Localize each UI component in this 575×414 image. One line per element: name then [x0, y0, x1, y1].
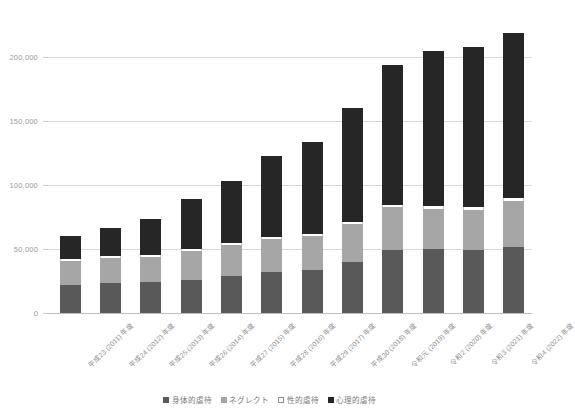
y-axis-label: 200,000: [0, 53, 38, 62]
bar-1: [60, 236, 81, 313]
gridline: [48, 121, 532, 122]
bar-segment-身体的虐待: [100, 283, 121, 313]
bar-segment-心理的虐待: [463, 47, 484, 207]
bar-segment-ネグレクト: [100, 258, 121, 283]
bar-segment-身体的虐待: [342, 262, 363, 314]
gridline: [48, 57, 532, 58]
legend-item-1[interactable]: 身体的虐待: [163, 394, 212, 405]
bar-segment-ネグレクト: [503, 201, 524, 247]
y-axis-tick: [43, 313, 48, 314]
y-axis-label: 50,000: [0, 245, 38, 254]
bar-segment-心理的虐待: [342, 108, 363, 221]
bar-segment-ネグレクト: [463, 210, 484, 250]
y-axis-tick: [43, 57, 48, 58]
bar-segment-心理的虐待: [221, 181, 242, 243]
bar-segment-心理的虐待: [140, 219, 161, 255]
y-axis-tick: [43, 185, 48, 186]
bar-segment-身体的虐待: [181, 280, 202, 314]
bar-segment-心理的虐待: [382, 65, 403, 205]
bar-segment-心理的虐待: [181, 199, 202, 249]
bar-segment-身体的虐待: [382, 250, 403, 313]
bar-segment-ネグレクト: [60, 261, 81, 285]
bar-9: [382, 65, 403, 313]
y-axis-tick: [43, 249, 48, 250]
bar-segment-心理的虐待: [100, 228, 121, 257]
gridline: [48, 185, 532, 186]
bar-segment-身体的虐待: [503, 247, 524, 313]
bar-segment-身体的虐待: [463, 250, 484, 313]
bar-segment-ネグレクト: [140, 257, 161, 282]
bar-segment-ネグレクト: [423, 209, 444, 249]
legend-item-2[interactable]: ネグレクト: [221, 394, 270, 405]
bar-segment-ネグレクト: [181, 251, 202, 280]
bar-segment-心理的虐待: [423, 51, 444, 206]
legend-label: 性的虐待: [287, 394, 319, 405]
bar-segment-心理的虐待: [302, 142, 323, 234]
y-axis-tick: [43, 121, 48, 122]
chart-legend: 身体的虐待ネグレクト性的虐待心理的虐待: [163, 394, 376, 405]
bar-segment-身体的虐待: [423, 249, 444, 313]
legend-item-4[interactable]: 心理的虐待: [328, 394, 377, 405]
swatch-neglect-icon: [221, 397, 227, 403]
bar-4: [181, 199, 202, 313]
bar-12: [503, 33, 524, 314]
bar-8: [342, 108, 363, 313]
bar-segment-ネグレクト: [382, 207, 403, 250]
bar-segment-ネグレクト: [261, 239, 282, 272]
plot-area: 050,000100,000150,000200,000250,000: [48, 0, 532, 313]
bar-10: [423, 51, 444, 313]
bar-2: [100, 228, 121, 313]
gridline: [48, 313, 532, 314]
bar-segment-ネグレクト: [342, 224, 363, 262]
bar-segment-身体的虐待: [302, 270, 323, 313]
bar-segment-身体的虐待: [221, 276, 242, 313]
swatch-psychological-icon: [328, 397, 334, 403]
bar-segment-身体的虐待: [261, 272, 282, 313]
y-axis-label: 100,000: [0, 181, 38, 190]
legend-item-3[interactable]: 性的虐待: [278, 394, 319, 405]
bar-6: [261, 156, 282, 313]
legend-label: ネグレクト: [229, 394, 269, 405]
bar-7: [302, 142, 323, 313]
y-axis-label: 0: [0, 309, 38, 318]
bar-segment-心理的虐待: [60, 236, 81, 259]
bar-segment-ネグレクト: [302, 236, 323, 270]
bar-segment-身体的虐待: [60, 285, 81, 313]
legend-label: 心理的虐待: [336, 394, 376, 405]
bar-segment-ネグレクト: [221, 245, 242, 276]
bar-5: [221, 181, 242, 313]
bar-segment-心理的虐待: [261, 156, 282, 237]
legend-label: 身体的虐待: [172, 394, 212, 405]
bar-3: [140, 219, 161, 313]
swatch-physical-icon: [163, 397, 169, 403]
swatch-sexual-icon: [278, 397, 284, 403]
bar-segment-身体的虐待: [140, 282, 161, 313]
y-axis-label: 150,000: [0, 117, 38, 126]
bar-11: [463, 47, 484, 313]
bar-segment-心理的虐待: [503, 33, 524, 199]
